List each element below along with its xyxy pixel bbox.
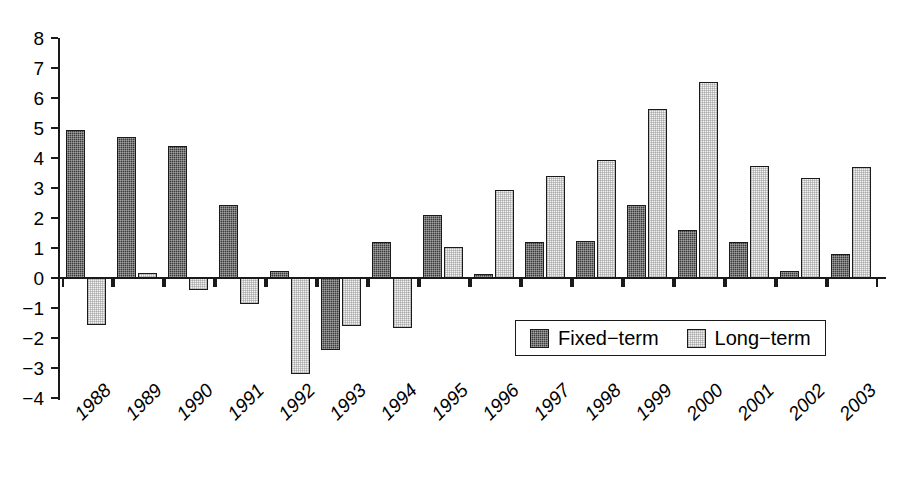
bar-1992-fixed-term [270,271,289,279]
bar-2003-long-term [852,167,871,278]
bar-1988-long-term [87,278,106,325]
y-tick-−2: −2 [51,337,58,339]
legend-label-long-term: Long−term [715,328,811,348]
bar-chart: 876543210−1−2−3−4 1988198919901991199219… [0,0,899,477]
bar-1995-long-term [444,247,463,279]
x-tick-boundary [572,279,574,287]
bar-1994-fixed-term [372,242,391,278]
x-axis-labels: 1988198919901991199219931994199519961997… [58,408,888,477]
y-tick-label: 0 [33,269,44,288]
y-tick-−4: −4 [51,397,58,399]
x-tick-boundary [470,279,472,287]
y-tick-label: 1 [33,239,44,258]
bar-1989-fixed-term [117,137,136,278]
bar-2003-fixed-term [831,254,850,278]
y-tick-label: −4 [22,389,44,408]
bar-1988-fixed-term [66,130,85,279]
bar-1999-fixed-term [627,205,646,279]
bar-1999-long-term [648,109,667,279]
y-tick-2: 2 [51,217,58,219]
x-tick-2003 [876,279,878,287]
x-tick-boundary [725,279,727,287]
bar-1998-long-term [597,160,616,279]
y-tick-3: 3 [51,187,58,189]
bar-1992-long-term [291,278,310,374]
y-tick-label: 3 [33,179,44,198]
bar-1996-long-term [495,190,514,279]
bar-1995-fixed-term [423,215,442,278]
y-tick-label: −2 [22,329,44,348]
y-tick-label: 5 [33,119,44,138]
x-tick-boundary [419,279,421,287]
y-tick-label: 4 [33,149,44,168]
x-tick-boundary [215,279,217,287]
legend-swatch-fixed-term-icon [530,329,549,348]
bar-1998-fixed-term [576,241,595,279]
chart-legend: Fixed−term Long−term [515,320,826,356]
bar-1989-long-term [138,273,157,278]
y-tick-−3: −3 [51,367,58,369]
y-tick-0: 0 [51,277,58,279]
legend-entry-fixed-term: Fixed−term [530,328,659,348]
y-tick-−1: −1 [51,307,58,309]
y-tick-7: 7 [51,67,58,69]
legend-label-fixed-term: Fixed−term [558,328,659,348]
x-tick-boundary [113,279,115,287]
legend-entry-long-term: Long−term [687,328,811,348]
bar-2000-fixed-term [678,230,697,278]
y-tick-1: 1 [51,247,58,249]
bar-1991-long-term [240,278,259,304]
y-tick-5: 5 [51,127,58,129]
bar-1990-long-term [189,278,208,290]
bar-1990-fixed-term [168,146,187,278]
y-axis-line [58,38,60,400]
bar-2001-fixed-term [729,242,748,278]
x-tick-boundary [776,279,778,287]
x-tick-boundary [62,279,64,287]
bar-2000-long-term [699,82,718,279]
y-tick-label: −1 [22,299,44,318]
bar-1991-fixed-term [219,205,238,279]
x-tick-boundary [266,279,268,287]
bar-1997-fixed-term [525,242,544,278]
y-tick-label: 2 [33,209,44,228]
x-tick-boundary [317,279,319,287]
y-tick-8: 8 [51,37,58,39]
x-tick-boundary [674,279,676,287]
bar-1996-fixed-term [474,274,493,279]
bar-2002-long-term [801,178,820,279]
y-tick-label: 6 [33,89,44,108]
bar-2001-long-term [750,166,769,279]
x-tick-boundary [827,279,829,287]
bar-1993-fixed-term [321,278,340,350]
x-tick-boundary [623,279,625,287]
bar-1993-long-term [342,278,361,326]
bar-1997-long-term [546,176,565,278]
y-tick-label: 8 [33,29,44,48]
bar-1994-long-term [393,278,412,328]
legend-swatch-long-term-icon [687,329,706,348]
y-tick-label: 7 [33,59,44,78]
y-tick-4: 4 [51,157,58,159]
bar-2002-fixed-term [780,271,799,279]
x-tick-boundary [521,279,523,287]
x-tick-boundary [368,279,370,287]
y-tick-label: −3 [22,359,44,378]
y-tick-6: 6 [51,97,58,99]
x-tick-boundary [164,279,166,287]
